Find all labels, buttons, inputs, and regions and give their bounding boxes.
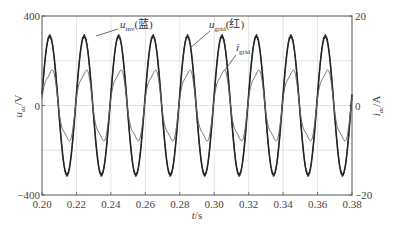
chart-figure: 0.200.220.240.260.280.300.320.340.360.38… bbox=[0, 0, 396, 237]
right-y-axis-label: iac/A bbox=[370, 96, 385, 117]
x-tick-label: 0.34 bbox=[273, 198, 293, 210]
annotation-u-inv: uinv(蓝) bbox=[96, 18, 153, 36]
x-tick-label: 0.32 bbox=[239, 198, 258, 210]
x-tick-label: 0.36 bbox=[308, 198, 328, 210]
right-y-tick-label: 20 bbox=[355, 10, 367, 22]
left-y-axis-label: uac/V bbox=[12, 94, 27, 117]
x-tick-label: 0.26 bbox=[136, 198, 156, 210]
annotation-i-grid: igrid bbox=[225, 41, 251, 70]
right-y-tick-label: −20 bbox=[355, 189, 373, 201]
x-tick-label: 0.22 bbox=[67, 198, 86, 210]
x-tick-label: 0.24 bbox=[101, 198, 121, 210]
left-y-tick-label: 400 bbox=[24, 10, 41, 22]
x-axis-label: t/s bbox=[192, 209, 202, 221]
x-tick-label: 0.30 bbox=[205, 198, 225, 210]
svg-text:uinv(蓝): uinv(蓝) bbox=[120, 18, 153, 33]
left-y-tick-label: −400 bbox=[17, 189, 40, 201]
x-tick-label: 0.28 bbox=[170, 198, 190, 210]
right-y-tick-label: 0 bbox=[355, 100, 361, 112]
svg-text:ugrid(红): ugrid(红) bbox=[209, 18, 244, 33]
left-y-tick-label: 0 bbox=[35, 100, 41, 112]
